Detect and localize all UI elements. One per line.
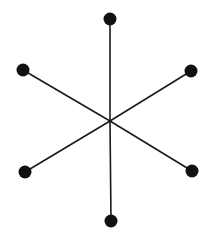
graph-edges	[23, 19, 192, 221]
edge-upper-right	[110, 71, 191, 121]
node-upper-left	[17, 64, 30, 77]
star-graph-diagram	[0, 0, 217, 232]
node-lower-right	[186, 165, 199, 178]
node-top	[104, 13, 117, 26]
node-lower-left	[19, 166, 32, 179]
edge-lower-left	[25, 121, 110, 172]
edge-lower-right	[110, 121, 192, 171]
node-bottom	[105, 215, 118, 228]
edge-upper-left	[23, 70, 110, 121]
node-upper-right	[185, 65, 198, 78]
center-node	[109, 120, 111, 122]
edge-bottom	[110, 121, 111, 221]
